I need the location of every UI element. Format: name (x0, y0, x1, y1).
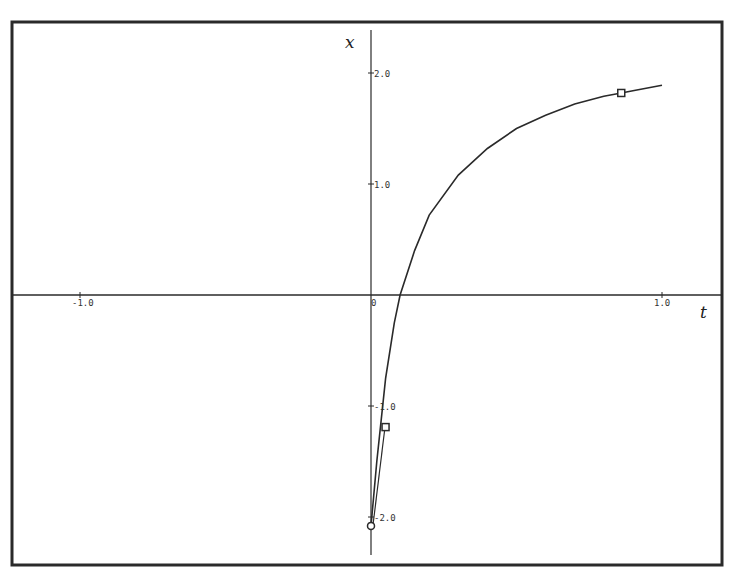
x-tick-label: 2.0 (374, 69, 390, 79)
x-tick-label: -2.0 (374, 513, 396, 523)
square-marker (382, 424, 389, 431)
t-tick-label: 0 (371, 298, 376, 308)
figure-canvas: -1.001.02.01.0-1.0-2.0 x t (0, 0, 733, 578)
x-tick-label: 1.0 (374, 180, 390, 190)
x-axis-label: x (345, 32, 355, 52)
plot-frame (12, 22, 722, 565)
data-markers (368, 89, 625, 529)
t-tick-label: 1.0 (654, 298, 670, 308)
square-marker (618, 89, 625, 96)
t-axis-label: t (700, 302, 707, 322)
t-tick-label: -1.0 (72, 298, 94, 308)
circle-marker (368, 522, 375, 529)
x-tick-label: -1.0 (374, 402, 396, 412)
data-curve (371, 85, 662, 526)
